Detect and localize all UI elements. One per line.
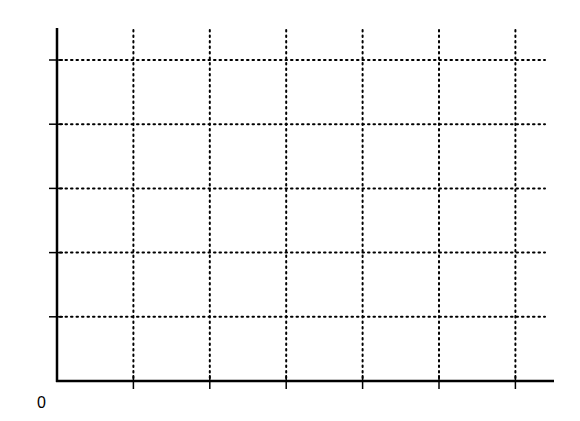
empty-grid-chart: 0 <box>0 0 580 421</box>
ticks <box>49 60 515 389</box>
axes <box>56 28 554 382</box>
origin-label: 0 <box>37 394 46 411</box>
gridlines <box>60 30 545 378</box>
